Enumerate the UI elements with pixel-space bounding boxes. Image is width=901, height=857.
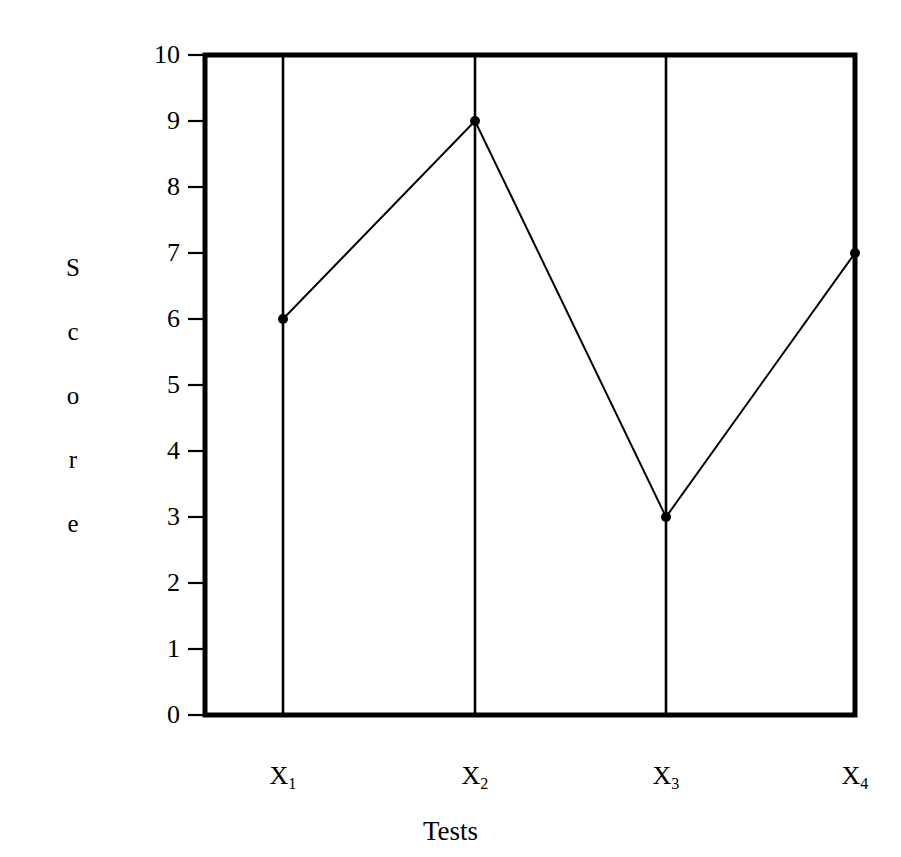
x-tick-subscript: 1 <box>288 775 296 792</box>
y-tick-label-10: 10 <box>134 42 180 68</box>
y-axis-title-letter: c <box>56 300 90 364</box>
x-tick-base: X <box>462 761 481 790</box>
x-tick-label-4: X4 <box>810 763 900 789</box>
y-axis-ticks <box>188 55 205 715</box>
x-tick-subscript: 2 <box>480 775 488 792</box>
plot-frame <box>205 55 855 715</box>
y-axis-title-letter: o <box>56 364 90 428</box>
x-tick-label-2: X2 <box>430 763 520 789</box>
series-polyline <box>283 121 855 517</box>
x-tick-label-3: X3 <box>621 763 711 789</box>
y-tick-label-3: 3 <box>134 504 180 530</box>
y-tick-label-7: 7 <box>134 240 180 266</box>
y-tick-label-8: 8 <box>134 174 180 200</box>
y-tick-label-0: 0 <box>134 702 180 728</box>
x-tick-base: X <box>842 761 861 790</box>
x-tick-base: X <box>270 761 289 790</box>
data-point-X₃-3 <box>661 512 671 522</box>
x-tick-subscript: 3 <box>671 775 679 792</box>
y-tick-label-5: 5 <box>134 372 180 398</box>
plot-border <box>205 55 855 715</box>
y-tick-label-4: 4 <box>134 438 180 464</box>
y-axis-title-letter: e <box>56 492 90 556</box>
y-axis-title-letter: S <box>56 236 90 300</box>
x-axis-title: Tests <box>0 818 901 845</box>
y-axis-title-letter: r <box>56 428 90 492</box>
score-series-markers <box>278 116 860 522</box>
data-point-X₂-9 <box>470 116 480 126</box>
line-chart-figure: S c o r e 10 9 8 7 6 5 4 3 2 1 0 X1 X2 X… <box>0 0 901 857</box>
y-tick-label-1: 1 <box>134 636 180 662</box>
data-point-X₁-6 <box>278 314 288 324</box>
y-tick-label-6: 6 <box>134 306 180 332</box>
y-tick-label-9: 9 <box>134 108 180 134</box>
score-series-line <box>283 121 855 517</box>
x-tick-subscript: 4 <box>860 775 868 792</box>
y-axis-title: S c o r e <box>56 236 90 556</box>
x-tick-base: X <box>653 761 672 790</box>
data-point-X₄-7 <box>850 248 860 258</box>
vertical-gridlines <box>283 55 666 715</box>
y-tick-label-2: 2 <box>134 570 180 596</box>
x-tick-label-1: X1 <box>238 763 328 789</box>
